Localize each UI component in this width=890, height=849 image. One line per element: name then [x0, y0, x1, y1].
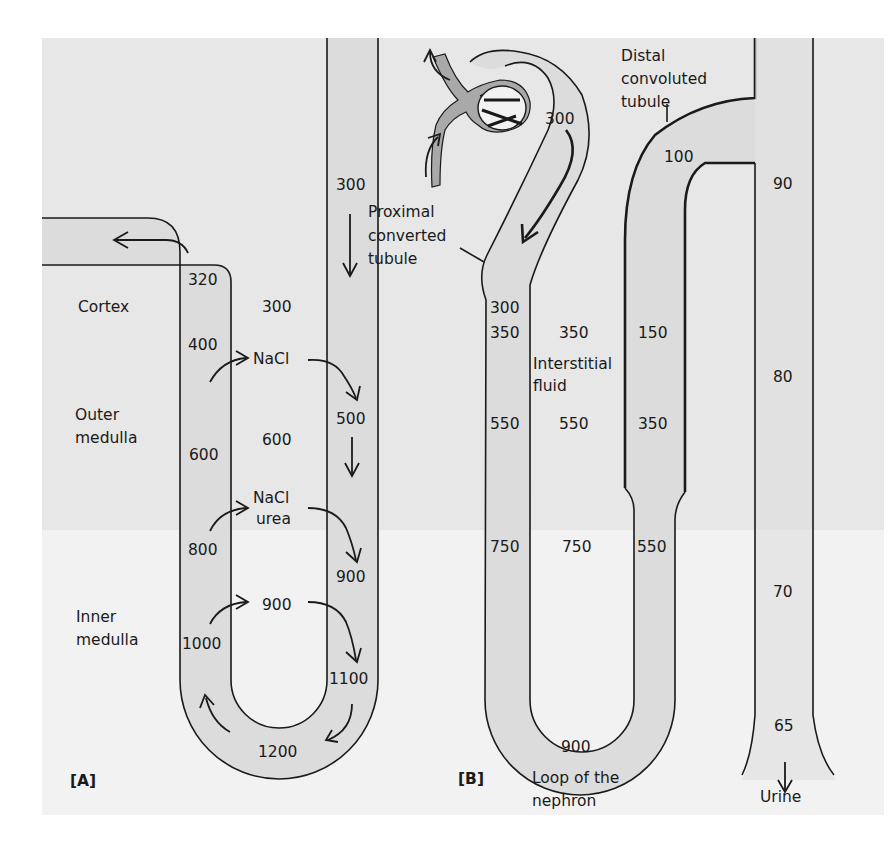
interstitium-a-value-2: 900	[262, 596, 292, 614]
label-interstitial-2: fluid	[533, 377, 567, 395]
label-distal-3: tubule	[621, 93, 670, 111]
bend-b-value: 900	[561, 738, 591, 756]
descending-a-value-1: 500	[336, 410, 366, 428]
interstitium-b-value-2: 750	[562, 538, 592, 556]
panel-a-tag: [A]	[70, 772, 96, 790]
region-cortex-label: Cortex	[78, 298, 129, 316]
descending-a-value-2: 900	[336, 568, 366, 586]
label-distal-1: Distal	[621, 47, 665, 65]
region-inner-medulla-label-2: medulla	[76, 631, 138, 649]
label-proximal-2: converted	[368, 227, 446, 245]
interstitium-a-value-1: 600	[262, 431, 292, 449]
descending-a-value-0: 300	[336, 176, 366, 194]
ascending-a-value-3: 800	[188, 541, 218, 559]
nephron-osmolarity-diagram: Cortex Outer medulla Inner medulla 320 4…	[0, 0, 890, 849]
collecting-duct-value-0: 90	[773, 175, 793, 193]
descending-b-value-2: 550	[490, 415, 520, 433]
distal-value: 100	[664, 148, 694, 166]
ascending-a-value-0: 320	[188, 271, 218, 289]
descending-b-value-0: 300	[490, 299, 520, 317]
ascending-a-value-4: 1000	[182, 635, 221, 653]
ascending-b-value-1: 350	[638, 415, 668, 433]
collecting-duct-value-3: 65	[774, 717, 794, 735]
interstitium-a-value-0: 300	[262, 298, 292, 316]
ascending-a-value-1: 400	[188, 336, 218, 354]
panel-b-tag: [B]	[458, 770, 484, 788]
region-outer-medulla-label-2: medulla	[75, 429, 137, 447]
interstitium-b-value-1: 550	[559, 415, 589, 433]
glomerular-value: 300	[545, 110, 575, 128]
descending-b-value-1: 350	[490, 324, 520, 342]
solute-urea: urea	[256, 510, 291, 528]
label-interstitial-1: Interstitial	[533, 355, 612, 373]
label-loop-2: nephron	[532, 792, 596, 810]
descending-b-value-3: 750	[490, 538, 520, 556]
solute-nacl-1: NaCl	[253, 350, 289, 368]
ascending-b-value-0: 150	[638, 324, 668, 342]
label-urine: Urine	[760, 788, 801, 806]
region-inner-medulla-label-1: Inner	[76, 608, 117, 626]
ascending-a-value-2: 600	[189, 446, 219, 464]
ascending-b-value-2: 550	[637, 538, 667, 556]
label-proximal-3: tubule	[368, 250, 417, 268]
region-outer-medulla-label-1: Outer	[75, 406, 120, 424]
label-distal-2: convoluted	[621, 70, 707, 88]
descending-a-value-3: 1100	[329, 670, 368, 688]
collecting-duct-value-1: 80	[773, 368, 793, 386]
collecting-duct-value-2: 70	[773, 583, 793, 601]
bend-a-value: 1200	[258, 743, 297, 761]
label-proximal-1: Proximal	[368, 203, 435, 221]
label-loop-1: Loop of the	[532, 769, 619, 787]
interstitium-b-value-0: 350	[559, 324, 589, 342]
solute-nacl-2: NaCl	[253, 489, 289, 507]
